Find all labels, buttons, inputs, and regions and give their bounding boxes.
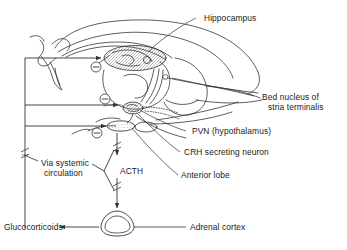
leader-hippocampus (148, 18, 196, 52)
label-crh-neuron: CRH secreting neuron (184, 147, 269, 157)
temporal-lobe (164, 58, 207, 115)
leader-systemic-circulation (24, 155, 38, 161)
label-via-systemic-line2: circulation (44, 168, 83, 178)
minus-sign-pvn (100, 94, 110, 104)
leader-bed-nucleus (172, 78, 254, 96)
temporal-lobe-inner (166, 100, 198, 105)
label-acth: ACTH (120, 166, 143, 176)
basal-outline (72, 129, 90, 134)
brainstem-line-1 (156, 102, 238, 120)
label-adrenal-cortex: Adrenal cortex (190, 222, 245, 232)
cortex-outline-right (248, 72, 260, 94)
label-via-systemic-line1: Via systemic (41, 158, 89, 168)
bracket-lower (104, 171, 114, 190)
leader-pvn (140, 110, 186, 131)
minus-sign-hippocampus (91, 62, 101, 72)
bracket-upper (104, 150, 114, 171)
label-hippocampus: Hippocampus (204, 13, 256, 23)
hpa-axis-illustration (0, 0, 347, 250)
diagram-canvas: Hippocampus Bed nucleus of stria termina… (0, 0, 347, 250)
hippocampus-structure (104, 46, 166, 71)
label-glucocorticoids: Glucocorticoids (4, 222, 63, 232)
thalamus-inner (124, 74, 148, 98)
label-bed-nucleus-line1: Bed nucleus of (262, 92, 319, 102)
fornix-fiber-3 (150, 70, 163, 104)
bst-structure (163, 74, 168, 79)
acth-pathway (92, 133, 121, 208)
minus-sign-anterior-lobe (92, 128, 102, 138)
olfactory-tip (30, 36, 44, 41)
label-pvn: PVN (hypothalamus) (192, 126, 271, 136)
septal-structure (38, 40, 56, 66)
adrenal-cortex-group (60, 211, 186, 236)
septal-structure-2 (41, 56, 62, 90)
label-anterior-lobe: Anterior lobe (181, 170, 230, 180)
brain-outline-group (30, 20, 262, 138)
label-bed-nucleus-line2: stria terminalis (268, 102, 324, 112)
median-eminence-right-2 (145, 111, 179, 119)
bracket-stem-upper (92, 164, 104, 171)
pvn-structure (123, 102, 143, 114)
